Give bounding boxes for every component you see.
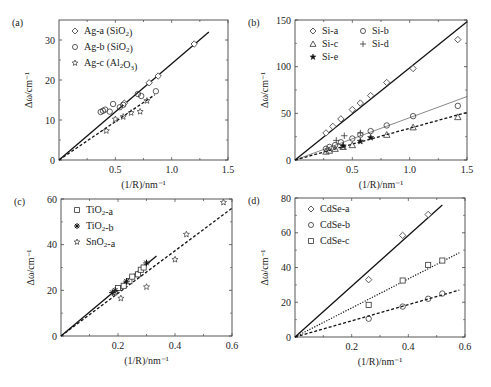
x-tick-label: 0.4 <box>402 341 415 352</box>
y-tick-label: 150 <box>276 15 291 26</box>
x-tick-label: 0.5 <box>109 164 122 175</box>
y-axis-label: Δω/cm⁻¹ <box>259 72 270 108</box>
series-tio2-a <box>115 265 146 291</box>
x-axis-label: (1/R)/nm⁻¹ <box>358 356 403 368</box>
y-tick-label: 10 <box>45 115 55 126</box>
data-point <box>440 258 445 263</box>
panel-d-chart: (d)0204060800.20.40.6(1/R)/nm⁻¹Δω/cm⁻¹Cd… <box>248 193 471 369</box>
panel-label: (d) <box>248 195 260 207</box>
legend-marker <box>75 208 80 213</box>
data-point <box>121 283 126 288</box>
x-tick-label: 1.0 <box>165 164 178 175</box>
legend-marker <box>310 28 316 34</box>
data-point <box>440 291 445 296</box>
legend-label: Si-a <box>322 25 339 36</box>
x-tick-label: 1.5 <box>222 164 235 175</box>
data-point <box>220 199 226 205</box>
legend: CdSe-aCdSe-bCdSe-c <box>308 203 350 246</box>
x-axis-label: (1/R)/nm⁻¹ <box>121 179 166 191</box>
legend-label: SnO2-a <box>86 236 116 249</box>
legend-label: TiO2-b <box>86 220 114 233</box>
panel-label: (c) <box>14 196 25 208</box>
x-axis-label: (1/R)/nm⁻¹ <box>359 179 404 191</box>
legend-label: Si-c <box>322 38 339 49</box>
data-point <box>455 36 461 42</box>
data-point <box>426 262 431 267</box>
x-tick-label: 0.2 <box>112 340 125 351</box>
data-point <box>455 103 460 108</box>
x-tick-label: 0.2 <box>345 341 358 352</box>
data-point <box>400 278 405 283</box>
fit-line <box>295 112 467 160</box>
data-point <box>341 133 347 139</box>
series-sno2-a <box>112 199 226 301</box>
data-point <box>143 260 149 266</box>
legend-marker <box>72 28 78 34</box>
y-tick-label: 0 <box>286 332 291 343</box>
legend-label: TiO2-a <box>86 204 114 217</box>
legend-marker <box>310 54 316 59</box>
panel-c-chart: (c)02040600.20.40.6(1/R)/nm⁻¹Δω/cm⁻¹TiO2… <box>14 194 238 368</box>
data-point <box>141 265 146 270</box>
data-point <box>323 130 329 136</box>
data-point <box>153 88 158 93</box>
legend-label: Ag-c (Al2O3) <box>84 57 137 73</box>
data-point <box>172 256 178 262</box>
series-cdse-c <box>366 258 445 307</box>
y-tick-label: 0 <box>50 155 55 166</box>
y-axis-label: Δω/cm⁻¹ <box>23 72 34 108</box>
series-cdse-a <box>365 211 431 283</box>
legend-marker <box>72 44 77 49</box>
legend-label: Ag-a (SiO2) <box>84 25 132 39</box>
data-point <box>183 231 189 237</box>
legend: TiO2-aTiO2-bSnO2-a <box>74 204 116 249</box>
fit-line <box>295 290 459 337</box>
x-tick-label: 1.5 <box>461 164 474 175</box>
y-tick-label: 40 <box>281 262 291 273</box>
y-tick-label: 60 <box>47 194 57 205</box>
y-tick-label: 100 <box>276 61 291 72</box>
legend-marker <box>72 60 78 65</box>
legend-marker <box>308 222 313 227</box>
legend: Si-aSi-bSi-cSi-dSi-e <box>310 25 389 62</box>
legend-marker <box>360 41 366 47</box>
y-tick-label: 30 <box>45 35 55 46</box>
legend-label: CdSe-c <box>320 235 350 246</box>
data-point <box>137 108 143 114</box>
legend-label: CdSe-a <box>320 203 350 214</box>
panel-a-chart: (a)01020300.51.01.5(1/R)/nm⁻¹Δω/cm⁻¹Ag-a… <box>12 17 234 191</box>
y-tick-label: 40 <box>47 239 57 250</box>
legend-label: Si-e <box>322 51 339 62</box>
fit-line <box>295 97 467 160</box>
panel-label: (b) <box>248 17 260 29</box>
y-tick-label: 0 <box>286 155 291 166</box>
legend-marker <box>74 223 80 229</box>
y-tick-label: 0 <box>52 331 57 342</box>
data-point <box>365 276 371 282</box>
legend-marker <box>360 28 365 33</box>
data-point <box>143 284 149 290</box>
data-point <box>425 211 431 217</box>
x-tick-label: 1.0 <box>403 164 416 175</box>
panel-label: (a) <box>12 17 23 29</box>
y-tick-label: 80 <box>281 193 291 204</box>
data-point <box>366 302 371 307</box>
figure: (a)01020300.51.01.5(1/R)/nm⁻¹Δω/cm⁻¹Ag-a… <box>0 0 491 387</box>
x-tick-label: 0.6 <box>459 341 472 352</box>
y-tick-label: 20 <box>47 285 57 296</box>
y-tick-label: 20 <box>281 297 291 308</box>
data-point <box>118 295 124 301</box>
fit-line <box>59 95 155 160</box>
data-point <box>107 109 112 114</box>
data-point <box>110 101 115 106</box>
data-point <box>123 278 129 284</box>
legend-marker <box>74 239 80 244</box>
data-point <box>130 274 135 279</box>
fit-line <box>295 205 442 337</box>
data-point <box>128 110 134 116</box>
y-axis-label: Δω/cm⁻¹ <box>259 249 270 285</box>
x-axis-label: (1/R)/nm⁻¹ <box>124 355 169 367</box>
legend: Ag-a (SiO2)Ag-b (SiO2)Ag-c (Al2O3) <box>72 25 137 73</box>
legend-marker <box>309 239 314 244</box>
x-tick-label: 0.6 <box>226 340 239 351</box>
